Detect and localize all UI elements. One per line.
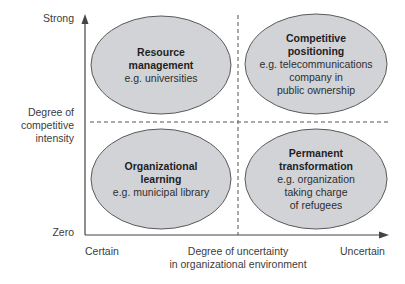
quadrant-example-line: e.g. municipal library	[113, 186, 209, 199]
quadrant-title-line: positioning	[259, 45, 372, 58]
y-axis-title-line: intensity	[21, 132, 74, 145]
x-axis-title: Degree of uncertainty in organizational …	[138, 245, 338, 271]
quadrant-organizational-learning: Organizational learning e.g. municipal l…	[113, 160, 209, 199]
quadrant-permanent-transformation: Permanent transformation e.g. organizati…	[277, 147, 355, 212]
quadrant-title-line: Organizational	[113, 160, 209, 173]
x-axis-title-line: in organizational environment	[138, 258, 338, 271]
quadrant-resource-management: Resource management e.g. universities	[125, 46, 198, 85]
quadrant-title-line: transformation	[277, 160, 355, 173]
y-axis-arrowhead	[82, 14, 89, 24]
quadrant-title-line: management	[125, 59, 198, 72]
quadrant-title-line: Permanent	[277, 147, 355, 160]
x-axis-right-label: Uncertain	[340, 245, 385, 258]
quadrant-diagram: Strong Degree of competitive intensity Z…	[0, 0, 405, 284]
y-axis-title: Degree of competitive intensity	[21, 106, 74, 145]
quadrant-example-line: e.g. telecommunications	[259, 58, 372, 71]
quadrant-example-line: company in	[259, 71, 372, 84]
y-axis-title-line: competitive	[21, 119, 74, 132]
quadrant-example-line: public ownership	[259, 84, 372, 97]
quadrant-example-line: taking charge	[277, 186, 355, 199]
y-axis-title-line: Degree of	[21, 106, 74, 119]
quadrant-example-line: e.g. organization	[277, 173, 355, 186]
x-axis-left-label: Certain	[85, 245, 119, 258]
y-axis-top-label: Strong	[43, 12, 74, 25]
quadrant-competitive-positioning: Competitive positioning e.g. telecommuni…	[259, 32, 372, 97]
quadrant-title-line: learning	[113, 173, 209, 186]
x-axis-title-line: Degree of uncertainty	[138, 245, 338, 258]
x-axis-arrowhead	[379, 232, 389, 239]
y-axis-bottom-label: Zero	[52, 226, 74, 239]
quadrant-example-line: e.g. universities	[125, 72, 198, 85]
quadrant-title-line: Competitive	[259, 32, 372, 45]
quadrant-title-line: Resource	[125, 46, 198, 59]
quadrant-example-line: of refugees	[277, 199, 355, 212]
